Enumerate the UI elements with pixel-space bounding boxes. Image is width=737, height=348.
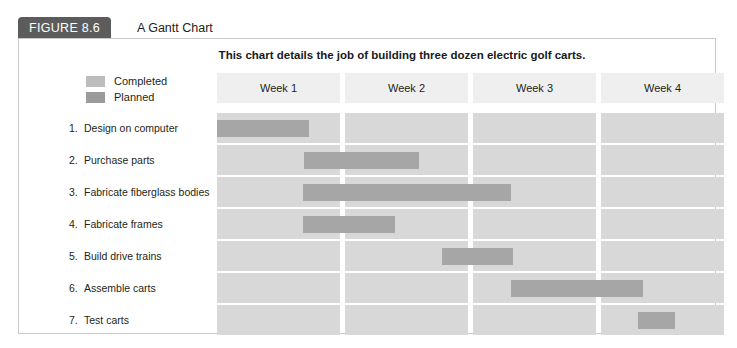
task-label-3: 3.Fabricate fiberglass bodies — [69, 177, 217, 207]
column-header-week-3: Week 3 — [473, 73, 596, 103]
gantt-cell-r7-w1 — [217, 305, 340, 335]
task-label-6: 6.Assemble carts — [69, 273, 217, 303]
column-header-week-1: Week 1 — [217, 73, 340, 103]
figure-title: A Gantt Chart — [137, 21, 213, 35]
gantt-cell-r4-w3 — [473, 209, 596, 239]
task-number-4: 4. — [69, 218, 84, 230]
gantt-cell-r6-w1 — [217, 273, 340, 303]
task-number-2: 2. — [69, 154, 84, 166]
gantt-cell-r6-w2 — [345, 273, 468, 303]
task-number-7: 7. — [69, 314, 84, 326]
task-name-1: Design on computer — [84, 122, 178, 134]
gantt-cell-r4-w4 — [601, 209, 724, 239]
task-label-2: 2.Purchase parts — [69, 145, 217, 175]
task-name-6: Assemble carts — [84, 282, 156, 294]
gantt-cell-r1-w3 — [473, 113, 596, 143]
gantt-bar-task-1[interactable] — [217, 120, 309, 137]
gantt-cell-r1-w4 — [601, 113, 724, 143]
figure-number-badge: FIGURE 8.6 — [18, 17, 111, 39]
gantt-cell-r2-w3 — [473, 145, 596, 175]
gantt-bar-task-2[interactable] — [304, 152, 419, 169]
task-label-4: 4.Fabricate frames — [69, 209, 217, 239]
gantt-cell-r2-w4 — [601, 145, 724, 175]
figure-card: This chart details the job of building t… — [18, 38, 716, 334]
task-number-3: 3. — [69, 186, 84, 198]
gantt-bar-task-7[interactable] — [638, 312, 675, 329]
gantt-cell-r3-w4 — [601, 177, 724, 207]
gantt-bar-task-5[interactable] — [442, 248, 512, 265]
task-label-7: 7.Test carts — [69, 305, 217, 335]
gantt-cell-r1-w2 — [345, 113, 468, 143]
gantt-cell-r5-w1 — [217, 241, 340, 271]
task-name-2: Purchase parts — [84, 154, 155, 166]
gantt-bar-task-4[interactable] — [303, 216, 395, 233]
column-header-week-2: Week 2 — [345, 73, 468, 103]
gantt-cell-r7-w2 — [345, 305, 468, 335]
task-number-5: 5. — [69, 250, 84, 262]
column-header-week-4: Week 4 — [601, 73, 724, 103]
task-name-3: Fabricate fiberglass bodies — [84, 186, 209, 198]
gantt-bar-task-3[interactable] — [303, 184, 512, 201]
task-name-4: Fabricate frames — [84, 218, 163, 230]
gantt-bar-task-6[interactable] — [511, 280, 643, 297]
task-number-6: 6. — [69, 282, 84, 294]
gantt-cell-r7-w3 — [473, 305, 596, 335]
figure-header: FIGURE 8.6 A Gantt Chart — [18, 17, 213, 39]
task-label-1: 1.Design on computer — [69, 113, 217, 143]
gantt-cell-r5-w4 — [601, 241, 724, 271]
task-name-5: Build drive trains — [84, 250, 162, 262]
task-number-1: 1. — [69, 122, 84, 134]
gantt-chart: Week 1Week 2Week 3Week 41.Design on comp… — [19, 39, 715, 333]
task-name-7: Test carts — [84, 314, 129, 326]
figure-container: FIGURE 8.6 A Gantt Chart This chart deta… — [0, 0, 737, 348]
task-label-5: 5.Build drive trains — [69, 241, 217, 271]
